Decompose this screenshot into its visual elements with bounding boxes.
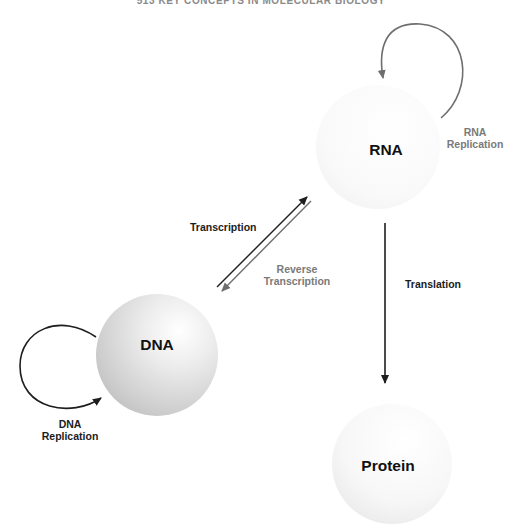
dna-label: DNA <box>140 336 174 354</box>
transcription-label: Transcription <box>190 221 257 233</box>
protein-label: Protein <box>361 457 414 475</box>
reverse-transcription-label: Reverse Transcription <box>262 263 332 287</box>
central-dogma-diagram: 513 KEY CONCEPTS IN MOLECULAR BIOLOGY <box>0 0 522 532</box>
dna-replication-label: DNA Replication <box>40 418 100 442</box>
rna-replication-line2: Replication <box>440 138 510 150</box>
rna-replication-label: RNA Replication <box>440 126 510 150</box>
reverse-transcription-line2: Transcription <box>262 275 332 287</box>
dna-sphere <box>96 294 218 416</box>
rna-label: RNA <box>369 141 403 159</box>
reverse-transcription-line1: Reverse <box>262 263 332 275</box>
dna-replication-line1: DNA <box>40 418 100 430</box>
dna-replication-arrow <box>20 325 101 408</box>
translation-label: Translation <box>405 278 461 290</box>
rna-replication-line1: RNA <box>440 126 510 138</box>
diagram-graphics <box>0 0 522 532</box>
dna-replication-line2: Replication <box>40 430 100 442</box>
